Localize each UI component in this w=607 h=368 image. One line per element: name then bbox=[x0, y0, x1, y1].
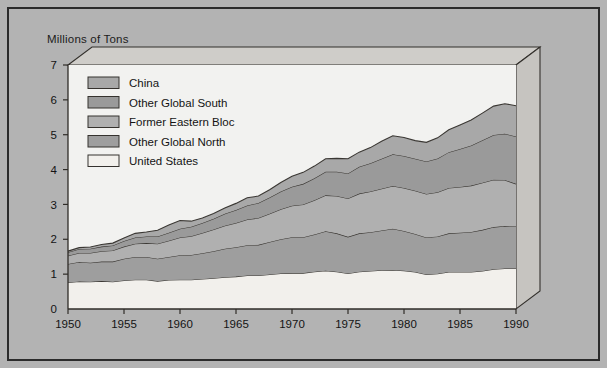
x-tick-label: 1985 bbox=[447, 318, 473, 330]
y-tick-label: 3 bbox=[51, 199, 57, 211]
box-right-face bbox=[516, 47, 540, 309]
box-top-face bbox=[68, 47, 540, 65]
chart-frame: Millions of Tons 01234567195019551960196… bbox=[7, 7, 600, 361]
y-tick-label: 1 bbox=[51, 268, 57, 280]
x-tick-label: 1965 bbox=[223, 318, 249, 330]
legend-label: Former Eastern Bloc bbox=[129, 116, 235, 128]
stacked-area-chart: 0123456719501955196019651970197519801985… bbox=[9, 9, 602, 363]
y-tick-label: 5 bbox=[51, 129, 57, 141]
legend-label: China bbox=[129, 77, 160, 89]
x-tick-label: 1980 bbox=[391, 318, 417, 330]
legend-swatch bbox=[88, 97, 119, 109]
legend-swatch bbox=[88, 136, 119, 148]
x-tick-label: 1975 bbox=[335, 318, 361, 330]
figure: Millions of Tons 01234567195019551960196… bbox=[0, 0, 607, 368]
legend-label: Other Global South bbox=[129, 97, 227, 109]
y-tick-label: 6 bbox=[51, 94, 57, 106]
x-tick-label: 1990 bbox=[503, 318, 529, 330]
y-tick-label: 7 bbox=[51, 59, 57, 71]
legend-swatch bbox=[88, 77, 119, 89]
x-tick-label: 1955 bbox=[111, 318, 137, 330]
legend-label: United States bbox=[129, 155, 198, 167]
legend-label: Other Global North bbox=[129, 136, 226, 148]
y-tick-label: 0 bbox=[51, 303, 57, 315]
x-tick-label: 1960 bbox=[167, 318, 193, 330]
x-tick-label: 1950 bbox=[55, 318, 81, 330]
y-tick-label: 2 bbox=[51, 233, 57, 245]
y-tick-label: 4 bbox=[51, 164, 58, 176]
legend-swatch bbox=[88, 116, 119, 128]
legend-swatch bbox=[88, 155, 119, 167]
x-tick-label: 1970 bbox=[279, 318, 305, 330]
